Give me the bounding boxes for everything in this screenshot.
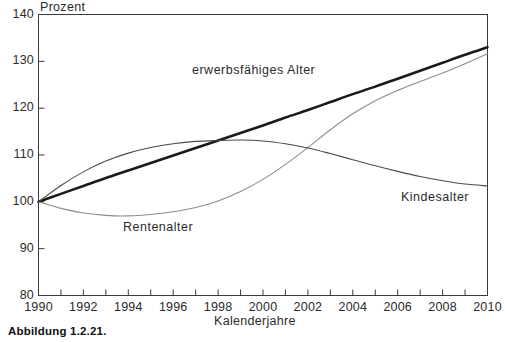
- series-label-erwerbsfaehiges-alter: erwerbsfähiges Alter: [192, 63, 315, 77]
- x-axis-ticks: [39, 290, 488, 296]
- x-axis-tick-label: 2006: [375, 300, 421, 314]
- series-label-rentenalter: Rentenalter: [123, 220, 193, 234]
- x-axis-tick-label: 1994: [105, 300, 151, 314]
- figure-container: Prozent Kalenderjahre 140130120110100908…: [0, 0, 505, 342]
- y-axis-title: Prozent: [40, 0, 85, 14]
- chart-plot-area: [0, 0, 505, 342]
- y-axis-tick-label: 90: [2, 241, 34, 255]
- y-axis-tick-label: 100: [2, 194, 34, 208]
- y-axis-tick-label: 120: [2, 100, 34, 114]
- y-axis-tick-label: 130: [2, 53, 34, 67]
- plot-frame: [39, 15, 488, 296]
- series-label-kindesalter: Kindesalter: [401, 190, 469, 204]
- x-axis-tick-label: 1998: [195, 300, 241, 314]
- x-axis-title: Kalenderjahre: [214, 314, 296, 328]
- y-axis-tick-label: 140: [2, 7, 34, 21]
- x-axis-tick-label: 1990: [16, 300, 62, 314]
- x-axis-tick-label: 2010: [465, 300, 505, 314]
- x-axis-tick-label: 2002: [285, 300, 331, 314]
- x-axis-tick-label: 2004: [330, 300, 376, 314]
- figure-caption: Abbildung 1.2.21.: [8, 325, 107, 337]
- x-axis-tick-label: 2000: [240, 300, 286, 314]
- x-axis-tick-label: 1996: [150, 300, 196, 314]
- y-axis-tick-label: 110: [2, 147, 34, 161]
- x-axis-tick-label: 1992: [60, 300, 106, 314]
- x-axis-tick-label: 2008: [420, 300, 466, 314]
